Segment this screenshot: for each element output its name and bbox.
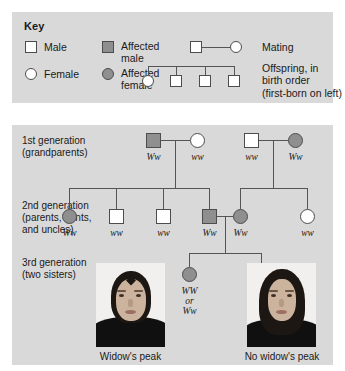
key-sibship-drop-1 [148,66,149,75]
key-label-male: Male [44,41,67,53]
key-label-female: Female [44,68,79,80]
g2-individual-3 [156,209,171,224]
key-symbol-female [25,68,37,80]
key-offspring-1 [142,75,154,87]
g2-individual-4 [202,209,217,224]
key-panel: Key Male Female Affected male Affected f… [12,12,333,103]
key-offspring-2 [170,75,182,87]
g2-individual-2 [109,209,124,224]
pedigree-panel: 1st generation (grandparents) 2nd genera… [12,125,333,365]
g2-left-drop-2 [116,188,117,209]
g1-individual-1 [146,133,161,148]
photo-brow-right-2 [285,290,294,292]
g2-right-drop-2 [307,188,308,209]
key-sibship-bar [148,66,234,67]
key-symbol-male [25,41,37,53]
key-title: Key [24,20,44,33]
photo-brow-left-1 [117,290,126,292]
photo-widows-peak [96,263,165,347]
photo-brow-left-2 [269,290,278,292]
g2-right-sibship-bar [240,188,307,189]
key-offspring-4 [228,75,240,87]
g1-genotype-1: Ww [135,152,172,162]
photo-brow-right-1 [134,290,143,292]
photo-nose-1 [128,299,133,307]
g3-drop-1 [189,253,190,267]
key-offspring-3 [199,75,211,87]
g2-left-drop-4 [209,188,210,209]
g2-right-drop-1 [240,188,241,209]
key-label-offspring: Offspring, in birth order (first-born on… [262,62,342,99]
g2-left-drop-1 [69,188,70,209]
key-label-mating: Mating [262,41,294,53]
g2-left-drop-3 [163,188,164,209]
g1-individual-4 [288,133,303,148]
g1-individual-3 [244,133,259,148]
g2-left-sibship-bar [69,188,209,189]
photo-eye-left-1 [119,294,124,297]
key-label-affected-male: Affected male [121,40,159,65]
photo-mouth-2 [276,310,287,314]
photo-eye-left-2 [271,294,276,297]
key-mating-female [230,41,242,53]
key-symbol-affected-female [102,68,114,80]
g1-genotype-4: Ww [277,152,314,162]
photo-nose-2 [279,299,284,307]
key-mating-line [202,47,230,48]
generation-3-label: 3rd generation (two sisters) [22,257,87,281]
photo-caption-1: Widow's peak [96,351,165,362]
g1-right-descent-line [273,140,274,188]
g1-individual-2 [190,133,205,148]
g2-descent-line [225,216,226,253]
g1-left-descent-line [175,140,176,188]
key-symbol-affected-male [102,41,114,53]
photo-eye-right-2 [287,294,292,297]
g1-genotype-2: ww [179,152,216,162]
g2-genotype-6: ww [289,228,326,238]
photo-eye-right-1 [136,294,141,297]
g2-individual-1 [62,209,77,224]
key-sibship-drop-2 [176,66,177,75]
g2-genotype-3: ww [145,228,182,238]
photo-no-widows-peak [247,263,316,347]
g3-genotype-1: WW or Ww [171,286,208,316]
key-sibship-drop-4 [234,66,235,75]
g2-genotype-1: Ww [51,228,88,238]
g2-genotype-5: Ww [222,228,259,238]
generation-1-label: 1st generation (grandparents) [22,135,88,159]
g1-genotype-3: ww [233,152,270,162]
g3-sibship-bar [189,253,261,254]
g2-individual-5 [233,209,248,224]
key-sibship-drop-3 [205,66,206,75]
g2-individual-6 [300,209,315,224]
photo-mouth-1 [125,310,136,314]
photo-caption-2: No widow's peak [243,351,321,362]
g3-individual-1 [182,267,197,282]
g2-genotype-2: ww [98,228,135,238]
key-mating-male [190,41,202,53]
